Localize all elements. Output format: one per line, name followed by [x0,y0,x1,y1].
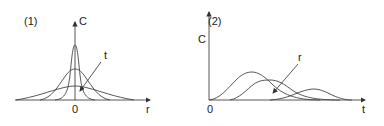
diagram-canvas [0,0,384,126]
panel2-plot [209,12,365,100]
panel1-x-axis-label: r [146,104,150,115]
panel2-x-axis-label: t [362,104,365,115]
panel1-t-arrow [80,62,101,91]
panel2-r-arrow [273,64,298,93]
panel2-curve-far [270,89,352,100]
panel1-t-label: t [104,50,107,61]
panel1-label: (1) [24,16,37,27]
panel1-y-axis-label: C [79,16,87,27]
panel2-origin-label: 0 [207,104,213,115]
panel1-plot [15,22,150,100]
panel2-label: (2) [208,16,221,27]
panel2-y-axis-label: C [198,34,206,45]
panel2-r-label: r [298,52,302,63]
panel1-origin-label: 0 [72,104,78,115]
